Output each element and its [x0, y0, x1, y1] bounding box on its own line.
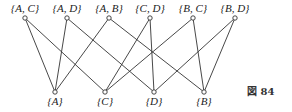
node-label-AC: {A, C}: [11, 2, 40, 14]
edge-BD-B: [204, 18, 235, 92]
edge-AD-D: [67, 18, 154, 92]
edge-AC-A: [25, 18, 55, 92]
node-label-BC: {B, C}: [179, 2, 208, 14]
node-BD: [233, 16, 237, 20]
node-B: [202, 90, 206, 94]
node-AC: [23, 16, 27, 20]
node-label-AB: {A, B}: [95, 2, 123, 14]
edge-AB-B: [109, 18, 204, 92]
edges-group: [25, 18, 235, 92]
node-C: [103, 90, 107, 94]
figure-caption: 図 84: [247, 86, 274, 97]
node-label-C: {C}: [97, 95, 114, 107]
node-AD: [65, 16, 69, 20]
node-A: [53, 90, 57, 94]
node-label-AD: {A, D}: [53, 2, 83, 14]
node-label-A: {A}: [47, 95, 63, 107]
node-D: [152, 90, 156, 94]
node-AB: [107, 16, 111, 20]
node-label-CD: {C, D}: [135, 2, 165, 14]
edge-AB-A: [55, 18, 109, 92]
node-BC: [191, 16, 195, 20]
edge-BC-C: [105, 18, 193, 92]
edge-CD-C: [105, 18, 150, 92]
node-label-D: {D}: [146, 95, 163, 107]
node-CD: [148, 16, 152, 20]
hasse-diagram: {A, C}{A, D}{A, B}{C, D}{B, C}{B, D}{A}{…: [0, 0, 292, 112]
nodes-group: [23, 16, 237, 94]
node-label-BD: {B, D}: [221, 2, 251, 14]
labels-group: {A, C}{A, D}{A, B}{C, D}{B, C}{B, D}{A}{…: [11, 2, 250, 107]
node-label-B: {B}: [196, 95, 212, 107]
edge-CD-D: [150, 18, 154, 92]
